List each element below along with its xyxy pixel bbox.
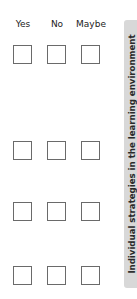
column-header-yes: Yes (6, 19, 40, 29)
section-side-tab-label: Individual strategies in the learning en… (127, 34, 137, 273)
checkbox-yes[interactable] (13, 45, 32, 64)
checkbox-maybe[interactable] (81, 141, 100, 160)
checkbox-yes[interactable] (13, 141, 32, 160)
checkbox-maybe[interactable] (81, 202, 100, 221)
checkbox-no[interactable] (47, 141, 66, 160)
checkbox-no[interactable] (47, 266, 66, 285)
column-header-maybe: Maybe (74, 19, 108, 29)
checkbox-yes[interactable] (13, 266, 32, 285)
checkbox-yes[interactable] (13, 202, 32, 221)
checkbox-maybe[interactable] (81, 45, 100, 64)
column-header-no: No (40, 19, 74, 29)
section-side-tab: Individual strategies in the learning en… (124, 20, 137, 288)
checkbox-maybe[interactable] (81, 266, 100, 285)
checkbox-no[interactable] (47, 45, 66, 64)
checkbox-no[interactable] (47, 202, 66, 221)
